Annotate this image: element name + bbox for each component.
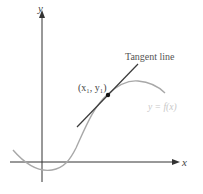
tangency-point — [106, 93, 110, 97]
tangent-line-label: Tangent line — [125, 51, 175, 62]
x-axis-arrow-icon — [172, 159, 180, 165]
tangent-diagram: y x Tangent line (x₁, y₁) y = f(x) — [0, 0, 203, 194]
curve-f — [13, 81, 165, 170]
curve-label: y = f(x) — [147, 102, 177, 113]
point-label: (x₁, y₁) — [78, 82, 107, 94]
y-axis-label: y — [37, 2, 43, 14]
x-axis-label: x — [181, 156, 187, 168]
